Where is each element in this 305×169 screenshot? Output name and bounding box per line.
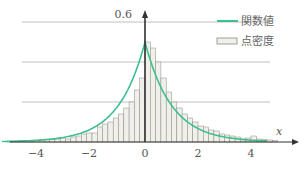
histogram-bar	[124, 108, 129, 142]
x-tick-label: 2	[195, 147, 202, 160]
histogram-bar	[193, 122, 198, 142]
y-tick-label: 0.6	[115, 8, 133, 21]
histogram-bar	[156, 62, 161, 142]
histogram-bar	[76, 136, 81, 142]
histogram-bar	[209, 130, 214, 142]
histogram-bars	[7, 42, 277, 142]
histogram-bar	[71, 137, 76, 142]
histogram-bar	[87, 133, 92, 142]
laplace-density-chart: 0.6 x −4−2024 関数値 点密度	[0, 0, 305, 169]
histogram-bar	[113, 118, 118, 142]
x-axis-label: x	[276, 125, 283, 138]
histogram-bar	[103, 124, 108, 142]
histogram-bar	[129, 102, 134, 142]
legend-label-function: 関数値	[241, 15, 274, 28]
x-tick-label: −2	[81, 147, 97, 160]
x-tick-label: −4	[28, 147, 44, 160]
x-tick-labels: −4−2024	[28, 147, 255, 160]
legend: 関数値 点密度	[217, 15, 274, 48]
histogram-bar	[203, 127, 208, 142]
histogram-bar	[119, 114, 124, 142]
histogram-bar	[97, 127, 102, 142]
histogram-bar	[134, 90, 139, 142]
legend-box-swatch	[217, 38, 237, 44]
x-tick-label: 4	[248, 147, 255, 160]
histogram-bar	[81, 134, 86, 142]
histogram-bar	[219, 134, 224, 142]
x-tick-label: 0	[142, 147, 149, 160]
histogram-bar	[92, 133, 97, 142]
histogram-bar	[108, 122, 113, 142]
legend-label-density: 点密度	[241, 34, 274, 48]
